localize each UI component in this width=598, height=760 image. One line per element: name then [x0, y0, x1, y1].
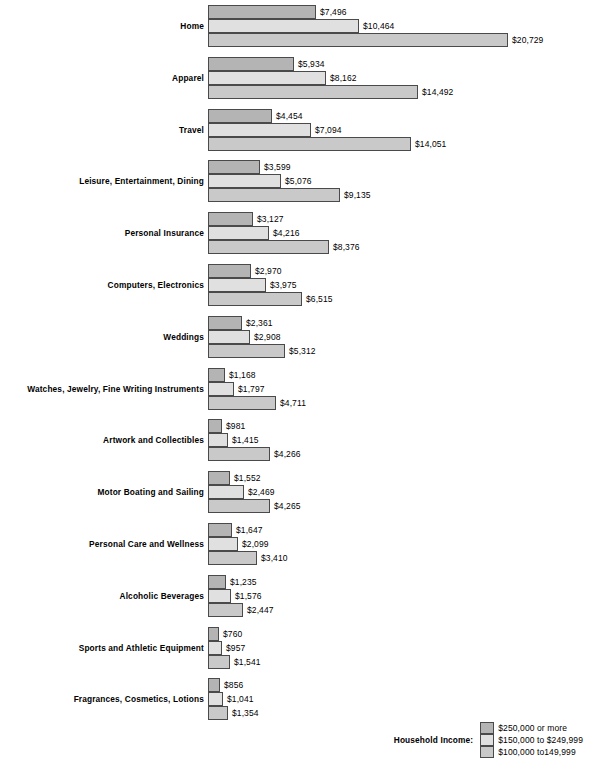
bar[interactable]: [208, 499, 270, 513]
bar-value-label: $1,354: [232, 708, 259, 718]
category-label: Apparel: [0, 73, 204, 83]
bar-value-label: $957: [226, 643, 245, 653]
bar[interactable]: [208, 292, 302, 306]
bar[interactable]: [208, 19, 359, 33]
bar[interactable]: [208, 589, 231, 603]
bar-row: $1,576: [208, 589, 231, 603]
bar[interactable]: [208, 419, 222, 433]
category-label: Alcoholic Beverages: [0, 591, 204, 601]
bar-value-label: $4,266: [274, 449, 301, 459]
bar[interactable]: [208, 330, 250, 344]
bar[interactable]: [208, 485, 244, 499]
bar-row: $8,162: [208, 71, 326, 85]
bar[interactable]: [208, 137, 411, 151]
bar[interactable]: [208, 396, 276, 410]
bar-value-label: $2,908: [254, 332, 281, 342]
bar-row: $5,312: [208, 344, 285, 358]
bar[interactable]: [208, 278, 266, 292]
bar[interactable]: [208, 160, 260, 174]
bar-value-label: $1,647: [236, 525, 263, 535]
bar-value-label: $1,797: [238, 384, 265, 394]
bar-row: $3,599: [208, 160, 260, 174]
bar[interactable]: [208, 551, 257, 565]
legend-item-label: $150,000 to $249,999: [498, 735, 583, 745]
bar-group: Weddings$2,361$2,908$5,312: [0, 316, 598, 358]
category-label: Motor Boating and Sailing: [0, 487, 204, 497]
bar[interactable]: [208, 692, 223, 706]
bar[interactable]: [208, 85, 418, 99]
bar-row: $1,041: [208, 692, 223, 706]
bar[interactable]: [208, 212, 253, 226]
bar-row: $6,515: [208, 292, 302, 306]
bar[interactable]: [208, 382, 234, 396]
legend-item[interactable]: $150,000 to $249,999: [480, 734, 583, 746]
bar[interactable]: [208, 575, 226, 589]
bar-value-label: $3,975: [270, 280, 297, 290]
bar-value-label: $856: [224, 680, 243, 690]
category-label: Travel: [0, 125, 204, 135]
bar-row: $4,266: [208, 447, 270, 461]
category-label: Computers, Electronics: [0, 280, 204, 290]
bar[interactable]: [208, 226, 269, 240]
bar-group: Fragrances, Cosmetics, Lotions$856$1,041…: [0, 678, 598, 720]
bar[interactable]: [208, 433, 228, 447]
bar[interactable]: [208, 678, 220, 692]
legend-swatch-icon: [480, 734, 494, 746]
bar-row: $2,469: [208, 485, 244, 499]
legend-item[interactable]: $100,000 to149,999: [480, 746, 594, 758]
bar[interactable]: [208, 471, 230, 485]
bar[interactable]: [208, 188, 340, 202]
bar-value-label: $1,415: [232, 435, 259, 445]
category-label: Personal Insurance: [0, 228, 204, 238]
legend-title: Household Income:: [394, 735, 474, 745]
bar-value-label: $1,168: [229, 370, 256, 380]
bar[interactable]: [208, 447, 270, 461]
bar-row: $981: [208, 419, 222, 433]
bar-value-label: $2,970: [255, 266, 282, 276]
bar[interactable]: [208, 655, 230, 669]
bar-row: $14,492: [208, 85, 418, 99]
bar[interactable]: [208, 627, 219, 641]
category-label: Artwork and Collectibles: [0, 435, 204, 445]
bar[interactable]: [208, 523, 232, 537]
bar[interactable]: [208, 344, 285, 358]
bar-group: Sports and Athletic Equipment$760$957$1,…: [0, 627, 598, 669]
bar-value-label: $6,515: [306, 294, 333, 304]
legend-item-label: $100,000 to149,999: [498, 747, 575, 757]
bar[interactable]: [208, 174, 281, 188]
bar[interactable]: [208, 603, 243, 617]
bar-value-label: $981: [226, 421, 245, 431]
bar[interactable]: [208, 71, 326, 85]
bar-value-label: $7,496: [320, 7, 347, 17]
bar-value-label: $4,216: [273, 228, 300, 238]
bar-group: Computers, Electronics$2,970$3,975$6,515: [0, 264, 598, 306]
bar[interactable]: [208, 240, 329, 254]
bar-group: Travel$4,454$7,094$14,051: [0, 109, 598, 151]
bar-row: $2,361: [208, 316, 242, 330]
legend-item[interactable]: $250,000 or more: [480, 722, 583, 734]
bar-value-label: $1,552: [234, 473, 261, 483]
bar[interactable]: [208, 109, 272, 123]
bar-value-label: $9,135: [344, 190, 371, 200]
bar-group: Personal Insurance$3,127$4,216$8,376: [0, 212, 598, 254]
bar-value-label: $5,312: [289, 346, 316, 356]
bar[interactable]: [208, 5, 316, 19]
bar[interactable]: [208, 123, 311, 137]
bar-row: $5,076: [208, 174, 281, 188]
bar-row: $856: [208, 678, 220, 692]
bar-value-label: $2,469: [248, 487, 275, 497]
bar[interactable]: [208, 33, 508, 47]
bar-row: $7,496: [208, 5, 316, 19]
bar-value-label: $10,464: [363, 21, 394, 31]
bar[interactable]: [208, 264, 251, 278]
bar[interactable]: [208, 537, 238, 551]
bar[interactable]: [208, 57, 294, 71]
bar-value-label: $14,051: [415, 139, 446, 149]
bar[interactable]: [208, 641, 222, 655]
bar[interactable]: [208, 316, 242, 330]
bar[interactable]: [208, 368, 225, 382]
category-label: Leisure, Entertainment, Dining: [0, 176, 204, 186]
bar[interactable]: [208, 706, 228, 720]
bar-row: $14,051: [208, 137, 411, 151]
bar-value-label: $760: [223, 629, 242, 639]
